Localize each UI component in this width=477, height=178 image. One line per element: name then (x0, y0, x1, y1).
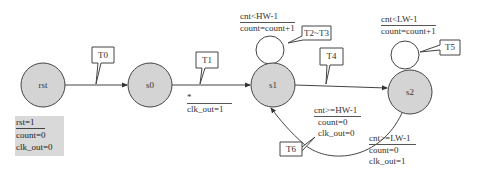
t1-label: T1 (196, 53, 218, 67)
t4-guard: cnt>=HW-1 count=0 clk_out=0 (314, 105, 361, 139)
t6-condition: cnt>=LW-1 (369, 133, 416, 145)
reset-condition: rst=1 (16, 116, 45, 129)
loop-s1 (256, 36, 284, 64)
t5-action: count=count+1 (381, 26, 436, 37)
t6-label: T6 (280, 142, 302, 156)
reset-condition-box: rst=1 count=0 clk_out=0 (15, 116, 64, 156)
t4-action-clk: clk_out=0 (314, 128, 361, 139)
t6-action-count: count=0 (369, 145, 416, 156)
t2-t3-guard: cnt<HW-1 count=count+1 (240, 11, 295, 34)
t6-action-clk: clk_out=1 (369, 156, 416, 167)
t1-condition: * (187, 92, 232, 104)
state-s1-label: s1 (269, 80, 277, 90)
t5-label: T5 (440, 40, 460, 54)
reset-action-count: count=0 (16, 129, 64, 141)
edge-t4 (295, 85, 387, 88)
state-rst-label: rst (39, 80, 48, 90)
t2-t3-label: T2~T3 (302, 26, 331, 40)
t4-condition: cnt>=HW-1 (314, 105, 361, 117)
t2-t3-condition: cnt<HW-1 (240, 11, 295, 23)
t5-condition: cnt<LW-1 (381, 14, 436, 26)
t1-action: clk_out=1 (187, 104, 232, 115)
loop-s2 (391, 41, 419, 69)
reset-action-clk: clk_out=0 (16, 141, 64, 153)
t6-guard: cnt>=LW-1 count=0 clk_out=1 (369, 133, 416, 167)
t5-guard: cnt<LW-1 count=count+1 (381, 14, 436, 37)
state-s0-label: s0 (146, 80, 154, 90)
t1-guard: * clk_out=1 (187, 92, 232, 115)
state-s2-label: s2 (406, 87, 414, 97)
t0-label: T0 (92, 48, 114, 62)
state-diagram: rst s0 s1 s2 T0 T1 T2~T3 T4 T5 T6 * clk_… (0, 0, 477, 178)
t4-action-count: count=0 (314, 117, 361, 128)
t4-label: T4 (320, 49, 343, 63)
t2-t3-action: count=count+1 (240, 23, 295, 34)
